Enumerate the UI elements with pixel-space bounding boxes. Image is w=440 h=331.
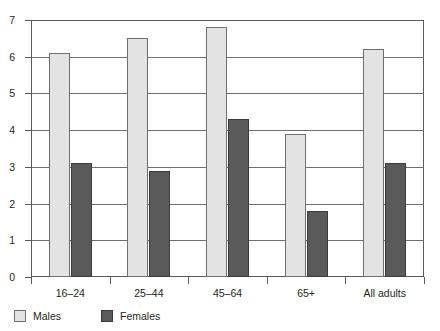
legend-item-females: Females — [101, 310, 160, 322]
x-tick-mark-2 — [188, 277, 189, 284]
bar-males-3 — [285, 134, 306, 277]
y-tick-label-2: 2 — [1, 199, 15, 209]
bar-females-0 — [71, 163, 92, 277]
bar-chart: 01234567 16–2425–4445–6465+All adults Ma… — [0, 0, 440, 331]
bar-males-1 — [127, 38, 148, 277]
bar-males-2 — [206, 27, 227, 277]
bar-females-3 — [307, 211, 328, 277]
y-tick-label-4: 4 — [1, 125, 15, 135]
bar-females-4 — [385, 163, 406, 277]
legend-label-females: Females — [120, 310, 160, 322]
x-tick-label-4: All adults — [335, 287, 435, 299]
chart-legend: Males Females — [14, 310, 200, 322]
x-tick-mark-1 — [110, 277, 111, 284]
x-tick-mark-3 — [267, 277, 268, 284]
legend-label-males: Males — [33, 310, 61, 322]
y-tick-label-1: 1 — [1, 235, 15, 245]
y-tick-label-7: 7 — [1, 15, 15, 25]
bar-females-1 — [149, 171, 170, 277]
x-tick-mark-4 — [345, 277, 346, 284]
y-tick-label-3: 3 — [1, 162, 15, 172]
x-tick-mark-0 — [31, 277, 32, 284]
legend-item-males: Males — [14, 310, 61, 322]
bar-males-0 — [49, 53, 70, 277]
bar-females-2 — [228, 119, 249, 277]
bars-layer — [31, 20, 424, 277]
bar-males-4 — [363, 49, 384, 277]
y-tick-label-5: 5 — [1, 88, 15, 98]
males-swatch-icon — [14, 310, 26, 322]
y-tick-label-6: 6 — [1, 52, 15, 62]
x-tick-mark-5 — [424, 277, 425, 284]
y-tick-label-0: 0 — [1, 272, 15, 282]
females-swatch-icon — [101, 310, 113, 322]
